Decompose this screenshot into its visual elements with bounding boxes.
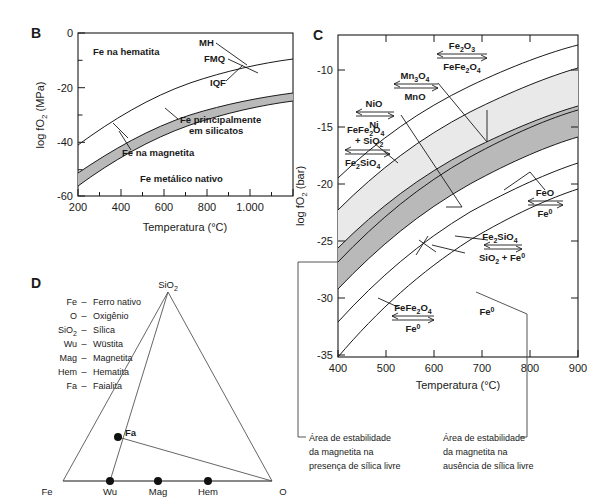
panel-c: C	[294, 27, 587, 391]
ternary-apex-sio2-sub: 2	[174, 285, 178, 292]
ternary-point-hem	[204, 477, 212, 485]
svg-text:FeFe2O4: FeFe2O4	[443, 61, 480, 74]
b2-top: NiO	[366, 98, 383, 109]
panel-b-ytick-2: -40	[57, 136, 73, 148]
b1-top-sub2: 4	[426, 76, 430, 83]
legend-name-4: Magnetita	[93, 353, 133, 363]
panel-b-xtick-4: 1.000	[236, 201, 264, 213]
panel-b-ylabel-main: log fO	[34, 119, 46, 149]
panel-c-ytick-0: -10	[317, 64, 333, 76]
legend-name-2: Sílica	[93, 325, 115, 335]
panel-b-ytick-0: 0	[67, 27, 73, 39]
legend-dash-5: –	[81, 367, 86, 377]
legend-dash-2: –	[81, 325, 86, 335]
panel-c-xtick-5: 900	[569, 362, 587, 374]
panel-b-region-silicatos-2: em silicatos	[189, 125, 243, 136]
panel-d: D Fe – Ferro nativo O – Oxigênio SiO2 – …	[31, 275, 287, 497]
panel-b-label-iqf: IQF	[210, 77, 226, 88]
caption-left-line-1: da magnetita na	[309, 447, 374, 457]
ternary-point-mag	[154, 477, 162, 485]
ternary-label-hem: Hem	[198, 486, 218, 497]
panel-b-xtick-0: 200	[69, 201, 87, 213]
b4-bot: Fe	[538, 208, 549, 219]
svg-text:log fO2 (bar): log fO2 (bar)	[294, 166, 309, 226]
panel-b-x-axis-title: Temperatura (°C)	[143, 221, 227, 233]
ternary-label-mag: Mag	[149, 486, 167, 497]
panel-b-y-axis-title: log fO2 (MPa)	[34, 82, 49, 149]
svg-text:SiO2 + Fe0: SiO2 + Fe0	[479, 252, 525, 265]
panel-d-letter: D	[31, 275, 41, 291]
panel-c-region-fe0-sup: 0	[491, 306, 495, 313]
b3-bot-tail: SiO	[360, 157, 376, 168]
ternary-point-wu	[106, 477, 114, 485]
b5-top: Fe	[482, 231, 493, 242]
legend-sym-0: Fe	[66, 297, 77, 307]
legend-sym-2: SiO2	[58, 325, 77, 337]
ternary-point-fa	[114, 433, 122, 441]
legend-dash-4: –	[81, 353, 86, 363]
panel-c-ytick-4: -30	[317, 292, 333, 304]
caption-left-line-0: Área de estabilidade	[309, 433, 391, 443]
caption-left-line-2: presença de sílica livre	[309, 461, 401, 471]
legend-sym-4: Mag	[59, 353, 77, 363]
figure-root: B 0 -20 -40 -60	[0, 0, 589, 504]
ternary-apex-fe: Fe	[41, 486, 52, 497]
b3-top2-sub: 2	[380, 141, 384, 148]
b1-top-tail: O	[418, 70, 425, 81]
b3-top: FeFe	[347, 124, 369, 135]
legend-dash-6: –	[81, 381, 86, 391]
panel-c-y-axis-title: log fO2 (bar)	[294, 166, 309, 226]
panel-b-region-fe-nativo: Fe metálico nativo	[140, 173, 223, 184]
panel-c-ylabel-unit: (bar)	[294, 166, 306, 192]
panel-c-ytick-3: -25	[317, 235, 333, 247]
ternary-apex-sio2-main: SiO	[158, 279, 174, 290]
panel-b-label-fmq: FMQ	[204, 53, 225, 64]
b1-bot: MnO	[404, 91, 425, 102]
legend-name-3: Wüstita	[93, 339, 123, 349]
b6-top: FeFe	[394, 302, 416, 313]
panel-c-ylabel-main: log fO	[294, 196, 306, 226]
b1-top: Mn	[401, 70, 415, 81]
tie-fa-o	[118, 437, 272, 481]
panel-c-xtick-1: 500	[377, 362, 395, 374]
legend-sym-2-main: SiO	[58, 325, 73, 335]
panel-c-ytick-5: -35	[317, 349, 333, 361]
legend-sym-1: O	[70, 311, 77, 321]
b5-top-sub2: 4	[514, 237, 518, 244]
b5-bot-sup: 0	[521, 252, 525, 259]
panel-b-xtick-1: 400	[112, 201, 130, 213]
b4-bot-sup: 0	[549, 208, 553, 215]
b5-bot: SiO	[479, 252, 495, 263]
panel-b-label-mh: MH	[199, 37, 214, 48]
b6-top-tail: O	[420, 302, 427, 313]
legend-sym-6: Fa	[66, 381, 77, 391]
b0-top-tail: O	[464, 40, 471, 51]
legend-dash-1: –	[81, 311, 86, 321]
panel-b-region-magnetita: Fe na magnetita	[122, 147, 195, 158]
b4-top: FeO	[536, 187, 554, 198]
legend-name-1: Oxigênio	[93, 311, 129, 321]
ternary-label-fa: Fa	[125, 427, 137, 438]
panel-b-ytick-1: -20	[57, 82, 73, 94]
panel-d-ternary: SiO2 Fe O Wu Mag Hem Fa	[41, 279, 286, 497]
panel-c-xtick-2: 600	[425, 362, 443, 374]
b0-bot-sub2: 4	[477, 67, 481, 74]
ternary-apex-o: O	[279, 486, 286, 497]
figure-svg: B 0 -20 -40 -60	[0, 0, 589, 504]
legend-dash-3: –	[81, 339, 86, 349]
panel-c-xtick-3: 700	[473, 362, 491, 374]
b5-bot-tail: + Fe	[499, 252, 521, 263]
panel-c-xtick-0: 400	[329, 362, 347, 374]
caption-right-line-0: Área de estabilidade	[443, 433, 525, 443]
panel-c-x-axis-title: Temperatura (°C)	[416, 379, 500, 391]
b6-bot-sup: 0	[417, 323, 421, 330]
b0-top: Fe	[449, 40, 460, 51]
svg-text:Fe2SiO4: Fe2SiO4	[345, 157, 380, 170]
svg-text:FeFe2O4: FeFe2O4	[394, 302, 431, 315]
panel-b-region-silicatos-1: Fe principalmente	[180, 114, 261, 125]
caption-right-line-2: ausência de sílica livre	[443, 461, 534, 471]
legend-name-0: Ferro nativo	[93, 297, 141, 307]
legend-dash-0: –	[81, 297, 86, 307]
panel-b-xtick-2: 600	[155, 201, 173, 213]
b3-top-sub2: 4	[380, 130, 384, 137]
